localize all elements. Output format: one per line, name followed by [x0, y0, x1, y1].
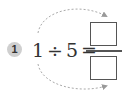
- problem-number: 1: [11, 44, 17, 55]
- dividend: 1: [32, 38, 44, 62]
- denominator-answer-box[interactable]: [90, 56, 117, 80]
- numerator-answer-box[interactable]: [90, 22, 117, 46]
- divisor: 5: [66, 38, 78, 62]
- fraction-bar: [86, 50, 122, 52]
- problem-number-badge: 1: [7, 42, 22, 57]
- math-exercise: 1 1 ÷ 5 =: [0, 0, 125, 96]
- division-sign: ÷: [47, 38, 63, 62]
